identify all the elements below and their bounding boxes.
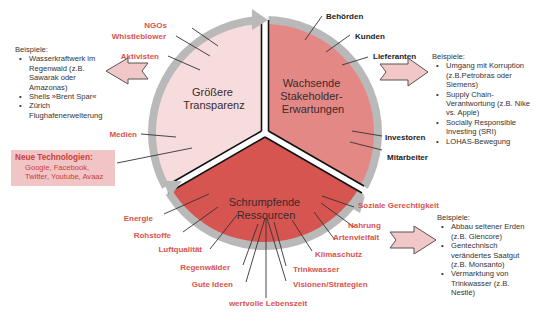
label-rohstoffe: Rohstoffe [134, 231, 172, 240]
label-kunden: Kunden [355, 32, 385, 41]
label-artenvielfalt: Artenvielfalt [333, 233, 380, 242]
label-klimaschutz: Klimaschutz [315, 250, 362, 259]
segment-title-stakeholder: Wachsende Stakeholder- Erwartungen [280, 77, 345, 115]
label-energie: Energie [124, 214, 154, 223]
label-trinkwasser: Trinkwasser [293, 265, 339, 274]
example-item: Gentechnisch verändertes Saatgut (z.B. M… [451, 241, 533, 269]
label-investoren: Investoren [385, 133, 426, 142]
example-item: Abbau seltener Erden (z.B. Glencore) [451, 222, 533, 241]
new-technologies-line: Google, Facebook, [11, 163, 115, 173]
arrow-right-bottom-examples [390, 226, 436, 254]
examples-right-bottom: Beispiele: Abbau seltener Erden (z.B. Gl… [437, 213, 533, 298]
examples-left-title: Beispiele: [15, 45, 115, 54]
examples-left: Beispiele: Wasserkraftwerk im Regenwald … [15, 45, 115, 120]
example-item: Socially Responsible Investing (SRI) [446, 118, 532, 137]
segment-title-transparency: Größere Transparenz [183, 86, 244, 111]
label-behoerden: Behörden [326, 12, 363, 21]
label-wertvolle-lebenszeit: wertvolle Lebenszeit [228, 299, 308, 308]
label-ngos: NGOs [144, 21, 167, 30]
arrow-right-top-examples [380, 58, 428, 86]
label-gute-ideen: Gute Ideen [192, 280, 233, 289]
label-medien: Medien [109, 130, 137, 139]
new-technologies-line: Twitter, Youtube, Avaaz [11, 172, 115, 182]
example-item: Zürich Flughafenerweiterung [29, 101, 115, 120]
example-item: LOHAS-Bewegung [446, 137, 532, 146]
label-nahrung: Nahrung [348, 221, 381, 230]
label-whistleblower: Whistleblower [112, 32, 166, 41]
example-item: Wasserkraftwerk im Regenwald (z.B. Sawar… [29, 54, 115, 92]
label-visionen-strategien: Visionen/Strategien [293, 280, 368, 289]
stakeholder-diagram: Größere Transparenz Wachsende Stakeholde… [0, 0, 534, 313]
label-luftqualitaet: Luftqualität [158, 245, 202, 254]
new-technologies-heading: Neue Technologien: [11, 150, 115, 163]
examples-right-top: Beispiele: Umgang mit Korruption (z.B.Pe… [432, 52, 532, 146]
segment-title-resources: Schrumpfende Ressourcen [229, 196, 304, 221]
example-item: Supply Chain-Verantwortung (z.B. Nike vs… [446, 90, 532, 118]
example-item: Umgang mit Korruption (z.B.Petrobras ode… [446, 61, 532, 89]
examples-right-top-title: Beispiele: [432, 52, 532, 61]
label-soziale-gerechtigkeit: Soziale Gerechtigkeit [358, 201, 439, 210]
label-regenwaelder: Regenwälder [180, 263, 230, 272]
examples-right-bottom-title: Beispiele: [437, 213, 533, 222]
example-item: Vermarktung von Trinkwasser (z.B. Nestlé… [451, 269, 533, 297]
example-item: Shells »Brent Spar« [29, 92, 115, 101]
label-mitarbeiter: Mitarbeiter [387, 153, 428, 162]
new-technologies-box: Neue Technologien: Google, Facebook, Twi… [11, 150, 115, 186]
